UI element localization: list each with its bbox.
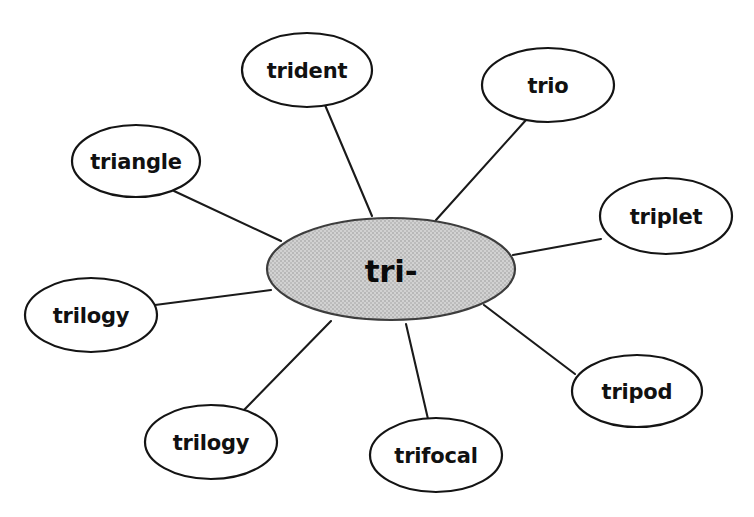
connector-line-trilogy-6	[244, 321, 331, 410]
word-web-diagram: tridenttriotriangletriplettrilogytripodt…	[0, 0, 754, 517]
node-label: triplet	[630, 205, 703, 229]
node-trio-1[interactable]: trio	[482, 48, 614, 122]
connector-line-trilogy-4	[155, 290, 271, 305]
node-label: trilogy	[53, 304, 130, 328]
node-label: triangle	[90, 150, 182, 174]
connector-line-triangle-2	[174, 191, 281, 241]
node-label: trilogy	[173, 431, 250, 455]
center-label: tri-	[365, 253, 417, 289]
connector-line-triplet-3	[513, 239, 601, 255]
node-trilogy-4[interactable]: trilogy	[25, 278, 157, 352]
connector-line-tripod-5	[484, 305, 575, 374]
node-trifocal-7[interactable]: trifocal	[370, 418, 502, 492]
connector-line-trio-1	[436, 120, 526, 220]
node-trident-0[interactable]: trident	[242, 33, 372, 107]
node-label: trifocal	[394, 444, 477, 468]
center-node[interactable]: tri-	[267, 218, 515, 320]
node-trilogy-6[interactable]: trilogy	[145, 405, 277, 479]
connector-line-trident-0	[325, 105, 372, 216]
connector-line-trifocal-7	[406, 324, 428, 419]
node-tripod-5[interactable]: tripod	[572, 355, 702, 427]
node-label: tripod	[602, 380, 673, 404]
node-label: trident	[267, 59, 348, 83]
node-triplet-3[interactable]: triplet	[600, 178, 732, 254]
node-triangle-2[interactable]: triangle	[72, 125, 200, 197]
word-web-canvas: tridenttriotriangletriplettrilogytripodt…	[0, 0, 754, 517]
node-label: trio	[527, 74, 568, 98]
